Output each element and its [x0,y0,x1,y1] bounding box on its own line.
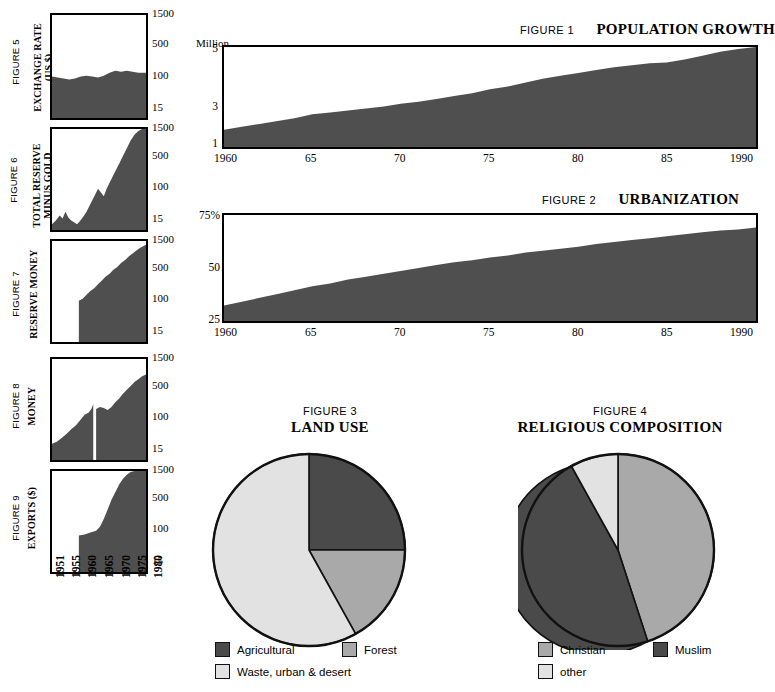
figure5-ytick-100: 100 [152,69,169,81]
figure4-number: FIGURE 4 [480,405,760,417]
figure3-legend-label-agricultural: Agricultural [237,644,295,656]
figure9-ytick-1500: 1500 [152,463,174,475]
figure1-xtick-65: 65 [305,152,317,164]
figure7-name: RESERVE MONEY [29,246,40,342]
figure4-legend-item-christian: Christian [538,642,605,657]
figure6-ytick-100: 100 [152,180,169,192]
figure2-xtick-80: 80 [572,326,584,338]
figure9-name: EXPORTS ($) [27,476,38,560]
figure8-name: MONEY [27,366,38,446]
chart-figure2: FIGURE 2 URBANIZATION 75% 50 25 1960 65 … [190,182,760,332]
figure4-legend-item-other: other [538,664,586,679]
figure3-name: LAND USE [185,419,475,436]
figure1-name: POPULATION GROWTH [596,21,775,37]
figure9-ytick-500: 500 [152,491,169,503]
left-xtick-1960: 1960 [86,555,98,578]
swatch-other-icon [538,664,553,679]
figure4-legend-label-christian: Christian [560,644,605,656]
figure3-pie [209,450,409,650]
figure3-legend-item-agricultural: Agricultural [215,642,295,657]
figure2-number: FIGURE 2 [542,194,596,206]
figure1-xtick-85: 85 [661,152,673,164]
figure5-plot [50,13,148,120]
figure4-pie [518,450,718,650]
figure5-ytick-500: 500 [152,37,169,49]
figure6-yticks: 1500 500 100 15 [152,127,188,232]
figure1-xtick-70: 70 [394,152,406,164]
left-xtick-1955: 1955 [70,555,82,578]
figure1-xtick-80: 80 [572,152,584,164]
figure2-xtick-65: 65 [305,326,317,338]
figure7-ytick-500: 500 [152,261,169,273]
figure5-yticks: 1500 500 100 15 [152,13,188,120]
figure4-name: RELIGIOUS COMPOSITION [480,419,760,436]
figure6-ytick-500: 500 [152,149,169,161]
swatch-waste-icon [215,664,230,679]
left-xtick-1951: 1951 [54,555,66,578]
panel-figure7: FIGURE 7 RESERVE MONEY 1500 500 100 15 [0,237,190,349]
figure3-legend-label-forest: Forest [364,644,397,656]
figure8-area [52,359,146,460]
left-column-xaxis: 1951 1955 1960 1965 1970 1975 1980 [50,578,160,628]
figure7-area [52,241,146,342]
figure7-ytick-100: 100 [152,292,169,304]
swatch-agricultural-icon [215,642,230,657]
figure8-ytick-100: 100 [152,410,169,422]
figure1-number: FIGURE 1 [520,24,574,36]
figure2-xtick-75: 75 [483,326,495,338]
figure7-yticks: 1500 500 100 15 [152,239,188,344]
figure9-ytick-100: 100 [152,522,169,534]
left-xtick-1965: 1965 [103,555,115,578]
figure6-ytick-1500: 1500 [152,121,174,133]
figure2-ytick-50: 50 [190,261,220,273]
swatch-christian-icon [538,642,553,657]
figure2-plot [222,213,758,323]
figure1-xtick-75: 75 [483,152,495,164]
figure3-legend-item-forest: Forest [342,642,397,657]
figure8-ytick-15: 15 [152,442,163,454]
figure5-area [52,15,146,118]
figure6-number: FIGURE 6 [9,140,19,220]
figure1-plot [222,45,758,149]
figure8-ytick-500: 500 [152,379,169,391]
figure2-ytick-25: 25 [190,313,220,325]
figure2-xtick-1990: 1990 [730,326,753,338]
figure9-number: FIGURE 9 [11,478,21,558]
figure3-number: FIGURE 3 [185,405,475,417]
figure6-plot [50,127,148,232]
chart-figure4: FIGURE 4 RELIGIOUS COMPOSITION Christian… [480,405,760,690]
figure1-xtick-1990: 1990 [730,152,753,164]
figure8-number: FIGURE 8 [11,366,21,446]
figure4-legend-label-muslim: Muslim [675,644,711,656]
figure2-name: URBANIZATION [618,191,739,207]
figure3-legend-label-waste: Waste, urban & desert [237,666,351,678]
panel-figure6: FIGURE 6 TOTAL RESERVE MINUS GOLD 1500 5… [0,125,190,237]
figure6-area [52,129,146,230]
figure4-legend-item-muslim: Muslim [653,642,711,657]
swatch-forest-icon [342,642,357,657]
figure7-ytick-1500: 1500 [152,233,174,245]
figure5-ytick-15: 15 [152,101,163,113]
figure3-legend-item-waste: Waste, urban & desert [215,664,351,679]
figure1-ytick-5: 5 [190,42,218,54]
figure4-legend-label-other: other [560,666,586,678]
figure1-ytick-3: 3 [190,100,218,112]
left-xtick-1980: 1980 [152,555,164,578]
figure7-plot [50,239,148,344]
panel-figure8: FIGURE 8 MONEY 1500 500 100 15 [0,349,190,461]
swatch-muslim-icon [653,642,668,657]
figure5-number: FIGURE 5 [11,22,21,102]
figure2-xtick-70: 70 [394,326,406,338]
chart-figure3: FIGURE 3 LAND USE Agricultural Forest Wa… [185,405,475,690]
figure1-ytick-1: 1 [190,137,218,149]
figure4-legend: Christian Muslim other [538,642,768,690]
figure6-ytick-15: 15 [152,212,163,224]
figure3-legend: Agricultural Forest Waste, urban & deser… [215,642,475,690]
figure2-ytick-75: 75% [190,209,220,221]
left-xtick-1970: 1970 [120,555,132,578]
figure7-number: FIGURE 7 [11,254,21,334]
figure1-header: FIGURE 1 POPULATION GROWTH [520,20,775,38]
figure1-xtick-1960: 1960 [214,152,237,164]
figure2-xtick-85: 85 [661,326,673,338]
figure2-header: FIGURE 2 URBANIZATION [542,190,739,208]
